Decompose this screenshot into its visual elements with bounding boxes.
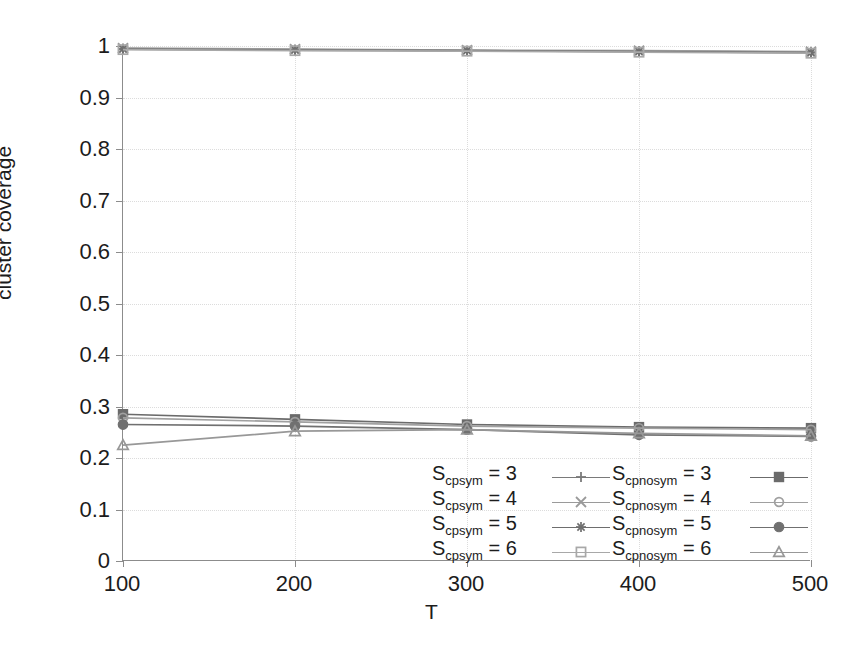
legend-marker-wrap [770, 518, 788, 536]
marker-open-triangle [774, 546, 785, 556]
x-axis-tick [811, 560, 812, 567]
legend-sample-3 [550, 541, 612, 563]
y-axis-tick-label: 1 [98, 35, 110, 57]
legend-sample-7 [748, 541, 810, 563]
y-axis-tick-label: 0 [98, 550, 110, 572]
y-axis-tick [116, 149, 123, 150]
legend-sample-1 [550, 491, 612, 513]
legend-marker-wrap [572, 518, 590, 536]
legend-marker-wrap [770, 468, 788, 486]
y-axis-tick-label: 0.5 [79, 293, 110, 315]
x-axis-tick-label: 400 [620, 573, 657, 595]
legend-sample-4 [748, 466, 810, 488]
legend-label-7: Scpnosym = 6 [612, 538, 748, 566]
y-axis-tick [116, 458, 123, 459]
x-axis-tick-label: 300 [448, 573, 485, 595]
y-axis-tick [116, 98, 123, 99]
legend-marker-wrap [572, 493, 590, 511]
marker-open-square [576, 547, 585, 556]
y-axis-tick-label: 0.8 [79, 138, 110, 160]
x-axis-tick [295, 560, 296, 567]
legend-marker-open-circle [770, 493, 788, 511]
marker-cross [576, 497, 586, 507]
marker-filled-circle [118, 420, 128, 430]
marker-filled-square [774, 472, 783, 481]
y-axis-tick-label: 0.7 [79, 190, 110, 212]
marker-plus [576, 472, 586, 482]
y-axis-tick [116, 561, 123, 562]
legend-marker-star [572, 518, 590, 536]
x-axis-title: T [0, 600, 863, 624]
x-axis-tick-label: 200 [276, 573, 313, 595]
marker-star [576, 522, 586, 532]
chart-figure: 00.10.20.30.40.50.60.70.80.91 1002003004… [0, 0, 863, 657]
legend-sample-0 [550, 466, 612, 488]
marker-filled-circle [774, 522, 784, 532]
legend-marker-plus [572, 468, 590, 486]
legend-marker-cross [572, 493, 590, 511]
x-axis-tick [123, 560, 124, 567]
y-axis-tick [116, 407, 123, 408]
y-axis-tick [116, 355, 123, 356]
x-axis-tick-label: 100 [104, 573, 141, 595]
x-axis-tick-label: 500 [792, 573, 829, 595]
legend-sample-5 [748, 491, 810, 513]
legend-marker-open-triangle [770, 543, 788, 561]
y-axis-tick-label: 0.4 [79, 344, 110, 366]
chart-legend: Scpsym = 3Scpnosym = 3Scpsym = 4Scpnosym… [432, 464, 807, 564]
y-axis-tick [116, 252, 123, 253]
y-axis-tick [116, 304, 123, 305]
marker-open-circle [775, 497, 784, 506]
legend-marker-wrap [572, 543, 590, 561]
y-axis-tick [116, 201, 123, 202]
legend-marker-wrap [770, 493, 788, 511]
y-axis-title: cluster coverage [0, 146, 16, 300]
legend-marker-open-square [572, 543, 590, 561]
y-axis-tick-label: 0.3 [79, 396, 110, 418]
legend-sample-6 [748, 516, 810, 538]
y-axis-tick-label: 0.2 [79, 447, 110, 469]
legend-marker-wrap [770, 543, 788, 561]
gridline-vertical [811, 46, 812, 561]
y-axis-tick [116, 510, 123, 511]
y-axis-tick-label: 0.9 [79, 87, 110, 109]
legend-marker-filled-square [770, 468, 788, 486]
y-axis-tick-label: 0.1 [79, 499, 110, 521]
legend-sample-2 [550, 516, 612, 538]
legend-marker-filled-circle [770, 518, 788, 536]
y-axis-tick-label: 0.6 [79, 241, 110, 263]
legend-marker-wrap [572, 468, 590, 486]
legend-label-3: Scpsym = 6 [432, 538, 550, 566]
